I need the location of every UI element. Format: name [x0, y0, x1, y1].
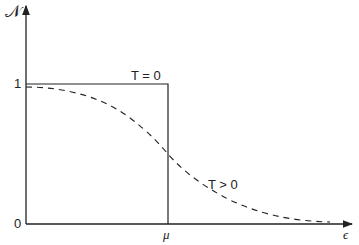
step-curve-t-zero [26, 84, 168, 224]
y-tick-zero: 0 [14, 216, 21, 231]
annotation-t-zero: T = 0 [131, 68, 161, 83]
y-axis-label: 𝒩 [5, 2, 21, 22]
x-tick-mu: μ [163, 227, 170, 243]
y-tick-one: 1 [14, 76, 21, 91]
fermi-dirac-plot [0, 0, 359, 245]
x-axis-label: ϵ [343, 227, 348, 243]
dashed-curve-t-positive [26, 87, 330, 222]
annotation-t-positive: T > 0 [208, 177, 238, 192]
